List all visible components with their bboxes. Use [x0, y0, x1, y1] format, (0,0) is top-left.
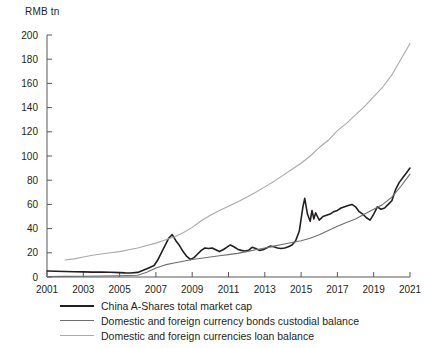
- y-tick-label: 0: [32, 272, 38, 283]
- x-tick-label: 2001: [36, 284, 59, 295]
- data-series-group: [47, 43, 410, 276]
- y-tick-label: 140: [21, 102, 38, 113]
- y-tick-label: 120: [21, 126, 38, 137]
- x-tick-label: 2015: [290, 284, 313, 295]
- x-axis-ticks: 2001200320052007200920112013201520172019…: [36, 272, 422, 295]
- x-tick-label: 2007: [145, 284, 168, 295]
- legend-line-swatch: [60, 320, 94, 321]
- y-tick-label: 80: [27, 175, 39, 186]
- line-chart-svg: 020406080100120140160180200 200120032005…: [0, 0, 425, 348]
- chart-legend: China A-Shares total market capDomestic …: [60, 298, 359, 343]
- x-tick-label: 2009: [181, 284, 204, 295]
- x-tick-label: 2003: [72, 284, 95, 295]
- legend-item[interactable]: China A-Shares total market cap: [60, 298, 359, 313]
- series-line: [47, 168, 410, 273]
- series-line: [47, 174, 410, 276]
- series-line: [65, 43, 410, 260]
- legend-item[interactable]: Domestic and foreign currencies loan bal…: [60, 328, 359, 343]
- legend-label: China A-Shares total market cap: [101, 300, 252, 312]
- y-tick-label: 160: [21, 78, 38, 89]
- legend-item[interactable]: Domestic and foreign currency bonds cust…: [60, 313, 359, 328]
- y-tick-label: 60: [27, 199, 39, 210]
- y-tick-label: 40: [27, 223, 39, 234]
- x-tick-label: 2005: [108, 284, 131, 295]
- chart-container: RMB tn 020406080100120140160180200 20012…: [0, 0, 425, 348]
- y-tick-label: 100: [21, 151, 38, 162]
- x-tick-label: 2011: [218, 284, 240, 295]
- y-tick-label: 20: [27, 247, 39, 258]
- legend-line-swatch: [60, 305, 94, 307]
- y-tick-label: 200: [21, 30, 38, 41]
- legend-line-swatch: [60, 335, 94, 336]
- legend-label: Domestic and foreign currencies loan bal…: [101, 330, 314, 342]
- legend-label: Domestic and foreign currency bonds cust…: [101, 315, 359, 327]
- x-tick-label: 2019: [363, 284, 386, 295]
- x-tick-label: 2017: [326, 284, 349, 295]
- x-tick-label: 2021: [399, 284, 422, 295]
- x-tick-label: 2013: [254, 284, 277, 295]
- y-tick-label: 180: [21, 54, 38, 65]
